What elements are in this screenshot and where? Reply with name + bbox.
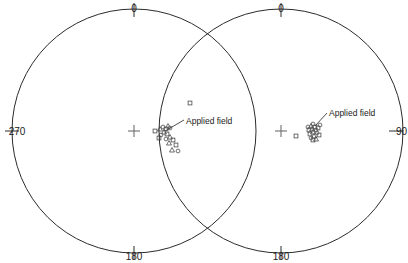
left-stereonet-panel: 0 270 180 Applied field — [5, 3, 256, 262]
right-azimuth-label-180: 180 — [273, 251, 290, 262]
data-point-square — [188, 101, 192, 105]
left-applied-field-label: Applied field — [186, 116, 233, 126]
right-azimuth-label-0: 0 — [278, 3, 284, 14]
left-applied-field-leader — [165, 120, 184, 131]
data-point-square — [174, 143, 178, 147]
right-applied-field-label: Applied field — [329, 108, 376, 118]
left-center-cross — [128, 125, 140, 137]
right-data-points — [294, 122, 322, 142]
data-point-triangle — [170, 148, 175, 153]
left-azimuth-label-270: 270 — [9, 126, 26, 137]
left-azimuth-label-0: 0 — [131, 3, 137, 14]
data-point-square — [294, 134, 298, 138]
right-stereonet-panel: 0 90 180 Applied field — [159, 3, 408, 262]
left-azimuth-label-180: 180 — [126, 251, 143, 262]
right-center-cross — [275, 125, 287, 137]
right-azimuth-label-90: 90 — [396, 126, 408, 137]
data-point-circle — [176, 149, 180, 153]
data-point-square — [153, 129, 157, 133]
pole-figure-pair: 0 270 180 Applied field 0 90 180 Applied… — [0, 0, 408, 263]
right-applied-field-leader — [315, 113, 327, 126]
